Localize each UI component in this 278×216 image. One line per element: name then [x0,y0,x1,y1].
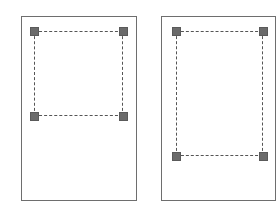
resize-handle-bottom-left[interactable] [30,112,39,121]
resize-handle-bottom-right[interactable] [259,152,268,161]
selection-rectangle-after[interactable] [176,31,263,156]
resize-handle-bottom-right[interactable] [119,112,128,121]
resize-handle-top-left[interactable] [30,27,39,36]
resize-handle-top-right[interactable] [119,27,128,36]
selection-rectangle-before[interactable] [34,31,123,116]
resize-handle-top-left[interactable] [172,27,181,36]
resize-handle-top-right[interactable] [259,27,268,36]
resize-handle-bottom-left[interactable] [172,152,181,161]
